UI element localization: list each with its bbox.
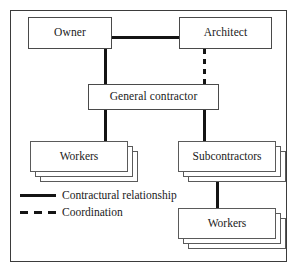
connector-architect-general-contractor xyxy=(203,49,206,85)
connector-general-contractor-subcontractors xyxy=(203,106,206,142)
legend: Contractural relationship Coordination xyxy=(20,190,210,224)
node-workers-bottom-label: Workers xyxy=(208,218,247,230)
node-workers-left-card-front[interactable]: Workers xyxy=(30,141,128,172)
connector-owner-general-contractor xyxy=(104,49,107,85)
node-architect[interactable]: Architect xyxy=(179,17,272,49)
node-general-contractor-label: General contractor xyxy=(110,91,198,103)
solid-line-icon xyxy=(20,194,56,197)
connector-general-contractor-workers xyxy=(104,106,107,142)
legend-item-coordination: Coordination xyxy=(20,207,123,219)
node-workers-left[interactable]: Workers xyxy=(30,141,140,188)
legend-item-contractural-relationship: Contractural relationship xyxy=(20,190,177,202)
node-owner-label: Owner xyxy=(54,27,86,39)
legend-item-contractural-relationship-label: Contractural relationship xyxy=(62,190,177,202)
node-general-contractor[interactable]: General contractor xyxy=(88,84,219,110)
diagram-canvas: Owner Architect General contractor Worke… xyxy=(0,0,297,272)
node-owner[interactable]: Owner xyxy=(28,17,112,49)
node-subcontractors[interactable]: Subcontractors xyxy=(178,141,288,188)
node-workers-left-label: Workers xyxy=(60,151,99,163)
node-subcontractors-label: Subcontractors xyxy=(193,151,262,163)
dashed-line-icon xyxy=(20,211,56,214)
node-architect-label: Architect xyxy=(204,27,248,39)
node-subcontractors-card-front[interactable]: Subcontractors xyxy=(178,141,276,172)
legend-item-coordination-label: Coordination xyxy=(62,207,123,219)
